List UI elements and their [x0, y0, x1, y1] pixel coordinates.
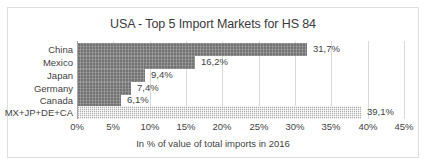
bar-value-label: 9,4%: [151, 68, 173, 82]
bar-value-label: 16,2%: [201, 55, 228, 69]
category-label-japan: Japan: [3, 69, 73, 82]
category-label-china: China: [3, 43, 73, 56]
bar-china[interactable]: [77, 43, 307, 56]
bar-value-label: 6,1%: [127, 93, 149, 107]
chart-container: USA - Top 5 Import Markets for HS 84 31,…: [0, 0, 426, 166]
value-axis-line: [77, 41, 78, 119]
category-label-mexico: Mexico: [3, 56, 73, 69]
gridline: [404, 41, 405, 119]
bar-mexico[interactable]: [77, 56, 195, 69]
x-tick-label: 0%: [70, 121, 84, 132]
x-tick-label: 35%: [321, 121, 340, 132]
x-tick-label: 45%: [394, 121, 413, 132]
chart-title: USA - Top 5 Import Markets for HS 84: [0, 17, 426, 31]
x-tick-label: 30%: [285, 121, 304, 132]
x-tick-label: 20%: [212, 121, 231, 132]
bar-value-label: 31,7%: [313, 42, 340, 56]
bar-mx-jp-de-ca[interactable]: [77, 106, 361, 119]
plot-area: 31,7% 16,2% 9,4% 7,4% 6,1% 39,1%: [77, 41, 404, 119]
x-tick-label: 25%: [249, 121, 268, 132]
x-tick-label: 15%: [176, 121, 195, 132]
x-tick-label: 5%: [106, 121, 120, 132]
x-tick-label: 40%: [358, 121, 377, 132]
category-axis-labels: China Mexico Japan Germany Canada MX+JP+…: [1, 41, 73, 119]
bar-value-label: 39,1%: [367, 105, 394, 119]
x-axis-title: In % of value of total imports in 2016: [0, 138, 426, 149]
x-tick-label: 10%: [140, 121, 159, 132]
bar-japan[interactable]: [77, 69, 145, 82]
category-label-mx-jp-de-ca: MX+JP+DE+CA: [3, 106, 73, 119]
